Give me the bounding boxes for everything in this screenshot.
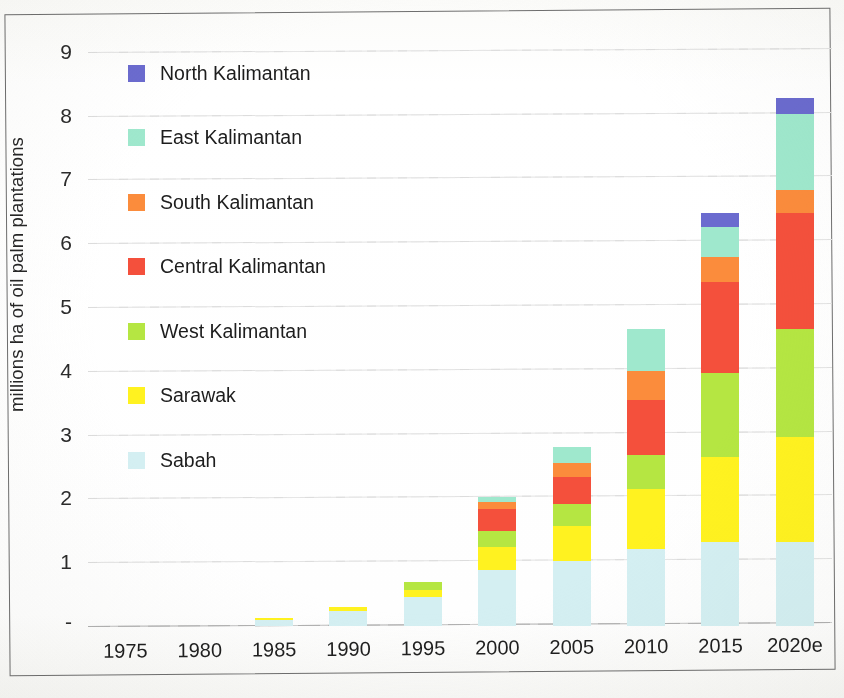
- legend-item: West Kalimantan: [128, 320, 307, 342]
- bar-segment-north-kalimantan: [776, 98, 814, 114]
- bar-segment-west-kalimantan: [553, 504, 591, 526]
- bar-segment-west-kalimantan: [478, 531, 516, 547]
- bar-segment-sarawak: [701, 457, 739, 542]
- bar-segment-central-kalimantan: [553, 477, 591, 504]
- bar-segment-central-kalimantan: [776, 213, 814, 330]
- bar-segment-sabah: [255, 620, 293, 626]
- bar-1990: [329, 607, 367, 626]
- legend-item-label: Sarawak: [160, 384, 236, 407]
- x-tick-label: 1980: [177, 639, 222, 662]
- bar-segment-sabah: [553, 561, 591, 626]
- y-tick-label: 1: [60, 550, 72, 574]
- x-tick-label: 2005: [549, 636, 594, 659]
- bar-1985: [255, 618, 293, 626]
- legend-swatch-icon: [128, 65, 145, 82]
- legend-swatch-icon: [128, 258, 145, 275]
- bar-2020e: [776, 98, 814, 626]
- bar-segment-sabah: [701, 542, 739, 626]
- legend-item: Sarawak: [128, 385, 236, 407]
- gridline: [88, 175, 832, 180]
- bar-segment-east-kalimantan: [553, 447, 591, 464]
- bar-segment-sarawak: [776, 437, 814, 542]
- legend-item-label: Central Kalimantan: [160, 255, 326, 278]
- y-axis-title: millions ha of oil palm plantations: [6, 52, 32, 412]
- gridline: [88, 112, 832, 117]
- x-tick-label: 1985: [252, 638, 297, 661]
- y-tick-label: 3: [60, 423, 72, 447]
- y-tick-label: 9: [60, 40, 72, 64]
- y-tick-label: 4: [60, 359, 72, 383]
- y-tick-label: 5: [60, 295, 72, 319]
- x-tick-label: 2000: [475, 636, 520, 659]
- x-axis-ticks: 1975198019851990199520002005201020152020…: [88, 626, 832, 672]
- legend-item: Central Kalimantan: [128, 256, 326, 278]
- legend-item: Sabah: [128, 449, 216, 471]
- bar-segment-central-kalimantan: [478, 509, 516, 531]
- legend-item-label: East Kalimantan: [160, 126, 302, 149]
- bar-segment-north-kalimantan: [701, 213, 739, 227]
- y-tick-label: 7: [60, 167, 72, 191]
- legend-swatch-icon: [128, 323, 145, 340]
- bar-segment-sabah: [404, 597, 442, 626]
- legend-item-label: South Kalimantan: [160, 191, 314, 214]
- bar-segment-south-kalimantan: [776, 190, 814, 212]
- bar-segment-sarawak: [627, 489, 665, 550]
- bar-segment-central-kalimantan: [701, 282, 739, 373]
- bar-segment-south-kalimantan: [553, 463, 591, 476]
- bar-segment-east-kalimantan: [776, 114, 814, 191]
- y-tick-label: -: [65, 610, 72, 634]
- legend-item-label: West Kalimantan: [160, 320, 307, 343]
- bar-segment-sarawak: [404, 590, 442, 598]
- x-tick-label: 2010: [624, 635, 669, 658]
- bar-segment-west-kalimantan: [776, 329, 814, 436]
- y-tick-label: 6: [60, 231, 72, 255]
- y-tick-label: 8: [60, 104, 72, 128]
- bar-2010: [627, 329, 665, 626]
- legend-item: South Kalimantan: [128, 191, 314, 213]
- bar-2005: [553, 447, 591, 626]
- legend-item-label: Sabah: [160, 449, 216, 472]
- legend-swatch-icon: [128, 129, 145, 146]
- bar-segment-west-kalimantan: [404, 582, 442, 590]
- bar-segment-sarawak: [553, 526, 591, 561]
- bar-2015: [701, 213, 739, 626]
- legend-item: East Kalimantan: [128, 127, 302, 149]
- bar-2000: [478, 497, 516, 626]
- bar-segment-south-kalimantan: [701, 257, 739, 281]
- chart-page: millions ha of oil palm plantations -123…: [0, 0, 844, 698]
- legend-item-label: North Kalimantan: [160, 62, 311, 85]
- bar-segment-west-kalimantan: [627, 455, 665, 489]
- legend-swatch-icon: [128, 452, 145, 469]
- x-tick-label: 1995: [401, 637, 446, 660]
- bar-segment-sarawak: [478, 547, 516, 570]
- x-tick-label: 2015: [698, 634, 743, 657]
- bar-segment-central-kalimantan: [627, 400, 665, 456]
- bar-segment-sabah: [329, 611, 367, 626]
- bar-segment-east-kalimantan: [701, 227, 739, 257]
- gridline: [88, 48, 832, 53]
- bar-segment-west-kalimantan: [701, 373, 739, 457]
- bar-segment-sabah: [478, 570, 516, 626]
- legend-swatch-icon: [128, 387, 145, 404]
- x-tick-label: 1975: [103, 639, 148, 662]
- bar-segment-sabah: [627, 549, 665, 626]
- bar-1995: [404, 582, 442, 626]
- bar-segment-south-kalimantan: [627, 371, 665, 399]
- legend-item: North Kalimantan: [128, 62, 311, 84]
- bar-segment-sabah: [776, 542, 814, 626]
- x-tick-label: 2020e: [767, 634, 823, 657]
- bar-segment-east-kalimantan: [627, 329, 665, 371]
- x-tick-label: 1990: [326, 638, 371, 661]
- legend-swatch-icon: [128, 194, 145, 211]
- bar-segment-south-kalimantan: [478, 502, 516, 510]
- y-tick-label: 2: [60, 486, 72, 510]
